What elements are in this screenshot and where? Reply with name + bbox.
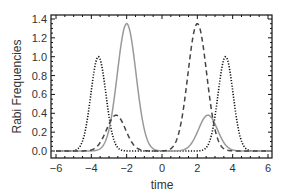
- y-tick-label: 1.2: [32, 32, 47, 44]
- x-tick-label: 4: [230, 162, 236, 174]
- y-tick-label: 0.0: [32, 145, 47, 157]
- x-tick-label: −4: [85, 162, 98, 174]
- y-tick-label: 0.4: [32, 107, 47, 119]
- x-axis-title: time: [151, 178, 174, 192]
- series-layer: [56, 24, 268, 151]
- x-tick-label: 0: [159, 162, 165, 174]
- y-tick-label: 1.4: [32, 13, 47, 25]
- series-line-dotted: [56, 57, 268, 151]
- y-tick-label: 1.0: [32, 51, 47, 63]
- plot-frame: [51, 15, 272, 158]
- y-tick-label: 0.6: [32, 88, 47, 100]
- y-axis-title: Rabi Frequencies: [10, 39, 24, 133]
- x-tick-label: 6: [265, 162, 271, 174]
- y-tick-label: 0.8: [32, 70, 47, 82]
- y-tick-label: 0.2: [32, 126, 47, 138]
- ticks-layer: [51, 15, 272, 158]
- x-tick-label: 2: [194, 162, 200, 174]
- series-line-dashed: [56, 24, 268, 151]
- x-tick-label: −2: [120, 162, 133, 174]
- chart: −6−4−202460.00.20.40.60.81.01.21.4 time …: [0, 0, 287, 196]
- x-tick-label: −6: [50, 162, 63, 174]
- series-line-solid: [56, 24, 268, 151]
